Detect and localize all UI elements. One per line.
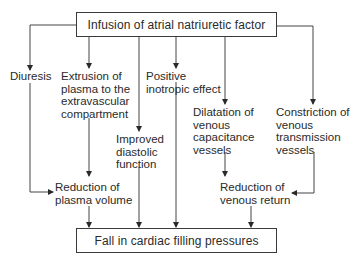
arrow-to-diuresis [30, 25, 76, 70]
bottom-box-fall-in-cardiac-filling-pressures: Fall in cardiac filling pressures [76, 228, 277, 253]
top-box-label: Infusion of atrial natriuretic factor [88, 18, 266, 32]
node-positive-inotropic-effect: Positive inotropic effect [146, 70, 221, 95]
node-extrusion-of-plasma: Extrusion of plasma to the extravascular… [61, 70, 130, 120]
node-diuresis: Diuresis [10, 70, 52, 83]
node-reduction-of-plasma-volume: Reduction of plasma volume [55, 181, 132, 206]
arrow-constriction-to-reduction-venous [292, 152, 314, 193]
node-constriction-of-venous-vessels: Constriction of venous transmission vess… [276, 106, 350, 156]
node-improved-diastolic-function: Improved diastolic function [116, 133, 164, 171]
arrow-to-constriction [277, 26, 313, 104]
arrow-diuresis-to-reduction-plasma [30, 83, 53, 192]
bottom-box-label: Fall in cardiac filling pressures [94, 234, 258, 248]
top-box-infusion-anf: Infusion of atrial natriuretic factor [76, 12, 277, 37]
node-dilatation-of-venous-vessels: Dilatation of venous capacitance vessels [193, 106, 254, 156]
node-reduction-of-venous-return: Reduction of venous return [220, 181, 290, 206]
